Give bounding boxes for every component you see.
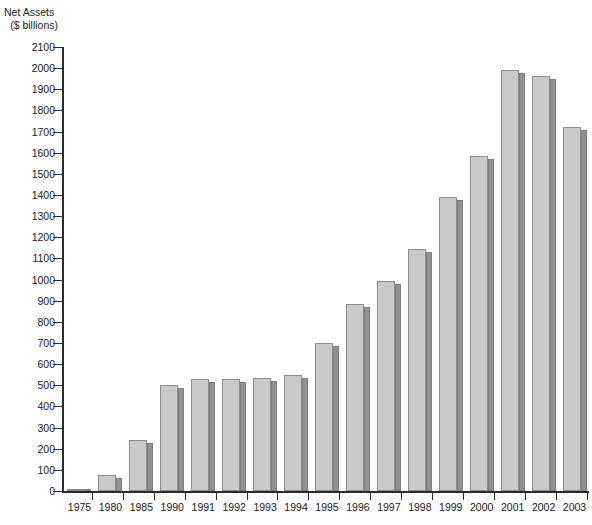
y-axis-tick-label: 1600 [5,148,55,158]
bar [501,70,525,491]
bar-front-face [470,156,488,491]
bar-front-face [501,70,519,491]
x-axis-tick [247,491,248,500]
y-axis-tick-label: 300 [5,423,55,433]
bar [191,379,215,491]
x-axis-tick [339,491,340,500]
bar [346,304,370,491]
bar-side-face [426,252,432,491]
y-axis-tick-label: 700 [5,338,55,348]
bar-front-face [253,378,271,491]
y-axis-tick-label: 1300 [5,211,55,221]
y-axis-title: Net Assets ($ billions) [4,6,60,32]
bar-side-face [333,346,339,491]
y-axis-tick-label: 400 [5,401,55,411]
bar-front-face [67,489,85,491]
bar-side-face [581,130,587,491]
bar-side-face [302,378,308,491]
y-axis-tick-label: 200 [5,444,55,454]
x-axis-tick [556,491,557,500]
x-axis-tick [370,491,371,500]
bar-front-face [129,440,147,491]
bar-front-face [191,379,209,491]
y-axis-tick [53,491,62,492]
bar [439,197,463,491]
bar-side-face [457,200,463,491]
bar-side-face [147,443,153,491]
x-axis-tick [494,491,495,500]
bar-front-face [439,197,457,491]
bar [222,379,246,491]
bar [160,385,184,491]
bar-side-face [178,388,184,491]
y-axis-labels: 0100200300400500600700800900100011001200… [0,47,55,491]
bar-chart: Net Assets ($ billions) 0100200300400500… [0,0,592,525]
y-axis-tick [53,364,62,365]
x-axis-tick [525,491,526,500]
plot-area [62,47,588,491]
y-axis-tick-label: 1800 [5,105,55,115]
bar-side-face [209,382,215,491]
bar [129,440,153,491]
y-axis-tick [53,301,62,302]
y-axis-tick [53,258,62,259]
x-axis-tick [216,491,217,500]
x-axis-tick [308,491,309,500]
bar-front-face [408,249,426,491]
bar-side-face [395,284,401,491]
bar-side-face [271,381,277,491]
x-axis-tick [123,491,124,500]
bar-side-face [116,478,122,491]
y-axis-tick-label: 1200 [5,232,55,242]
bar [532,76,556,491]
bar-front-face [563,127,581,491]
y-axis-tick [53,406,62,407]
bar-front-face [315,343,333,491]
y-axis-tick-label: 2000 [5,63,55,73]
x-axis-tick-label: 2003 [555,501,592,513]
bar [563,127,587,491]
x-axis-tick [463,491,464,500]
y-axis-tick [53,385,62,386]
y-axis-title-line1: Net Assets [4,6,54,18]
x-axis-tick [587,491,588,500]
bar [315,343,339,491]
y-axis-tick-label: 1100 [5,253,55,263]
y-axis-tick [53,132,62,133]
y-axis-tick-label: 2100 [5,42,55,52]
bar [470,156,494,491]
y-axis-tick [53,470,62,471]
y-axis-tick-label: 600 [5,359,55,369]
y-axis-tick [53,89,62,90]
bar-side-face [519,73,525,491]
y-axis-tick [53,428,62,429]
x-axis-line [62,491,589,493]
x-axis-tick [92,491,93,500]
y-axis-line [62,47,64,492]
bar [408,249,432,491]
y-axis-tick-label: 900 [5,296,55,306]
y-axis-tick [53,449,62,450]
y-axis-tick-label: 1700 [5,127,55,137]
bar-front-face [346,304,364,491]
y-axis-tick-label: 1400 [5,190,55,200]
y-axis-tick [53,195,62,196]
y-axis-tick-label: 1000 [5,275,55,285]
bar-front-face [222,379,240,491]
y-axis-tick [53,110,62,111]
bar-side-face [85,489,91,491]
x-axis-tick [432,491,433,500]
y-axis-tick [53,237,62,238]
x-axis-tick [185,491,186,500]
bar-front-face [160,385,178,491]
y-axis-tick-label: 1900 [5,84,55,94]
y-axis-tick [53,322,62,323]
y-axis-tick-label: 800 [5,317,55,327]
y-axis-tick [53,343,62,344]
bar-side-face [364,307,370,491]
y-axis-tick [53,216,62,217]
y-axis-title-line2: ($ billions) [4,19,58,32]
bar [98,475,122,491]
bar-front-face [377,281,395,491]
y-axis-tick-label: 1500 [5,169,55,179]
